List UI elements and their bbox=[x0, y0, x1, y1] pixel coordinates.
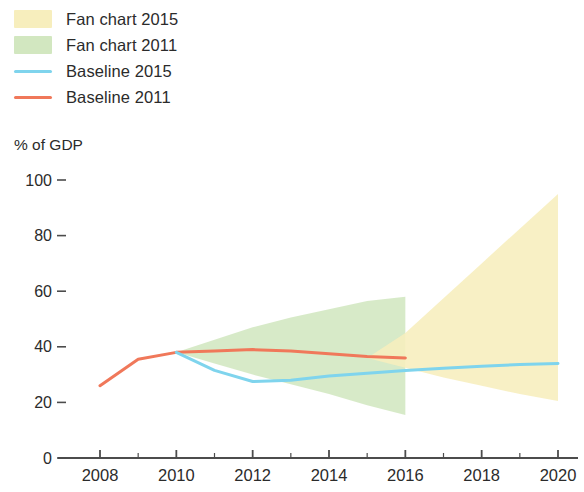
x-tick-group: 2008201020122014201620182020 bbox=[82, 450, 577, 484]
x-tick-label: 2018 bbox=[463, 466, 500, 484]
plot-area: 020406080100 200820102012201420162018202… bbox=[0, 0, 584, 492]
x-tick-label: 2012 bbox=[234, 466, 271, 484]
x-tick-label: 2014 bbox=[311, 466, 348, 484]
x-tick-label: 2020 bbox=[540, 466, 577, 484]
fan-chart-figure: Fan chart 2015Fan chart 2011Baseline 201… bbox=[0, 0, 584, 492]
y-tick-label: 100 bbox=[25, 172, 52, 189]
x-tick-label: 2008 bbox=[82, 466, 119, 484]
x-tick-label: 2016 bbox=[387, 466, 424, 484]
fan-bands bbox=[176, 194, 558, 415]
y-tick-label: 40 bbox=[34, 338, 52, 355]
y-tick-label: 20 bbox=[34, 394, 52, 411]
y-tick-label: 80 bbox=[34, 227, 52, 244]
y-tick-label: 0 bbox=[43, 450, 52, 467]
y-tick-group: 020406080100 bbox=[25, 172, 66, 467]
x-tick-label: 2010 bbox=[158, 466, 195, 484]
y-tick-label: 60 bbox=[34, 283, 52, 300]
